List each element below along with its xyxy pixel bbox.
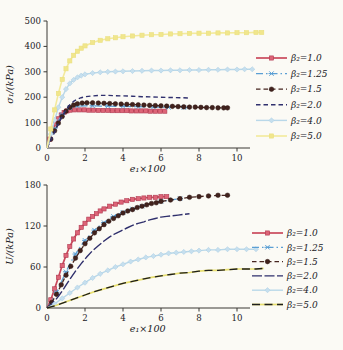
- series-marker: [225, 67, 230, 72]
- series-marker: [68, 244, 72, 248]
- series-marker: [105, 69, 110, 74]
- series-marker: [187, 67, 192, 72]
- series-marker: [140, 33, 144, 37]
- series-marker: [125, 109, 129, 113]
- y-tick-label: 200: [25, 92, 41, 102]
- series-marker: [234, 247, 239, 252]
- y-tick-label: 300: [25, 67, 41, 77]
- series-marker: [244, 31, 248, 35]
- series-marker: [98, 38, 102, 42]
- series-marker: [178, 32, 182, 36]
- y-axis-label: U/(kPa): [4, 228, 15, 265]
- series-marker: [159, 199, 164, 204]
- series-marker: [72, 237, 76, 241]
- series-marker: [165, 195, 169, 199]
- series-marker: [53, 108, 57, 112]
- series-marker: [102, 207, 106, 211]
- legend-marker: [269, 71, 275, 75]
- y-tick-label: 60: [30, 262, 41, 272]
- pore-pressure-strain-chart: 0601201800246810U/(kPa)e₁×100β₂=1.0β₂=1.…: [0, 175, 343, 350]
- series-marker: [158, 109, 162, 113]
- series-marker: [73, 256, 78, 261]
- series-marker: [182, 105, 187, 110]
- series-marker: [142, 196, 146, 200]
- series-marker: [97, 226, 102, 231]
- series-marker: [136, 197, 140, 201]
- series-marker: [113, 264, 118, 269]
- series-marker: [119, 200, 123, 204]
- series-marker: [68, 59, 72, 63]
- series-marker: [101, 108, 105, 112]
- series-marker: [64, 253, 68, 257]
- legend: β₂=1.0β₂=1.25β₂=1.5β₂=2.0β₂=4.0β₂=5.0: [256, 53, 328, 141]
- legend-label: β₂=1.25: [290, 69, 328, 79]
- series-marker: [158, 252, 163, 257]
- series-marker: [187, 195, 192, 200]
- series-marker: [75, 102, 80, 107]
- series-marker: [111, 216, 116, 221]
- series-marker: [234, 67, 239, 72]
- series-line: [47, 249, 256, 308]
- series-marker: [216, 106, 221, 111]
- series-line: [47, 197, 167, 308]
- series-marker: [121, 35, 125, 39]
- y-tick-label: 0: [36, 143, 41, 153]
- x-tick-label: 8: [196, 313, 201, 323]
- series-marker: [149, 33, 153, 37]
- series-marker: [91, 108, 95, 112]
- x-axis-label: e₁×100: [130, 323, 166, 334]
- series-marker: [107, 101, 112, 106]
- series-marker: [216, 193, 221, 198]
- legend-label: β₂=1.0: [286, 228, 318, 238]
- series-marker: [164, 104, 169, 109]
- series-marker: [139, 109, 143, 113]
- series-marker: [134, 109, 138, 113]
- series-marker: [206, 247, 211, 252]
- series-marker: [148, 195, 152, 199]
- series-marker: [102, 101, 107, 106]
- legend-label: β₂=2.0: [286, 271, 318, 281]
- x-tick-label: 4: [120, 313, 126, 323]
- series-marker: [196, 67, 201, 72]
- series-marker: [197, 194, 202, 199]
- series-marker: [187, 105, 192, 110]
- series-marker: [136, 103, 141, 108]
- legend-label: β₂=1.5: [290, 84, 322, 94]
- x-tick-label: 2: [82, 153, 87, 163]
- series-marker: [85, 100, 90, 105]
- legend-marker: [269, 118, 274, 123]
- legend-label: β₂=5.0: [286, 300, 318, 310]
- series-marker: [149, 68, 154, 73]
- y-tick-label: 500: [25, 16, 41, 26]
- series-marker: [244, 247, 249, 252]
- legend-label: β₂=5.0: [290, 131, 322, 141]
- series-marker: [64, 273, 69, 278]
- series-marker: [144, 203, 149, 208]
- legend-marker: [269, 56, 273, 60]
- series-marker: [153, 103, 158, 108]
- legend-marker: [265, 245, 271, 249]
- series-marker: [87, 108, 91, 112]
- series-marker: [106, 219, 111, 224]
- legend-item: β₂=1.5: [252, 257, 318, 267]
- legend-item: β₂=1.0: [256, 53, 322, 63]
- series-marker: [90, 100, 95, 105]
- series-marker: [56, 91, 60, 95]
- x-tick-label: 8: [196, 153, 201, 163]
- series-marker: [143, 255, 148, 260]
- series-marker: [60, 264, 64, 268]
- series-marker: [225, 106, 230, 111]
- series-marker: [82, 108, 86, 112]
- series-marker: [91, 40, 95, 44]
- series-marker: [148, 109, 152, 113]
- legend-label: β₂=4.0: [290, 116, 322, 126]
- series-marker: [136, 257, 141, 262]
- series-marker: [129, 109, 133, 113]
- x-tick-label: 6: [158, 153, 163, 163]
- series-marker: [115, 109, 119, 113]
- series-marker: [108, 204, 112, 208]
- series-marker: [105, 268, 110, 273]
- x-tick-label: 4: [120, 153, 126, 163]
- series-marker: [56, 275, 60, 279]
- series-marker: [206, 31, 210, 35]
